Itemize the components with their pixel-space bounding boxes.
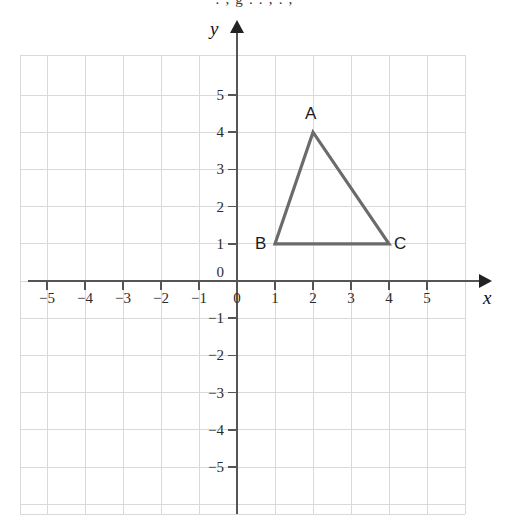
vertex-label-b: B (255, 235, 266, 252)
x-tick-label-origin: 0 (233, 291, 241, 306)
x-tick-label: −4 (77, 291, 93, 306)
x-axis-arrow (479, 274, 492, 288)
triangle-abc-path (275, 132, 389, 244)
x-tick-label: −2 (153, 291, 169, 306)
vertex-label-c: C (394, 235, 406, 252)
x-tick-label: 3 (347, 291, 355, 306)
y-tick-label: −3 (208, 385, 224, 400)
x-tick-label: 5 (423, 291, 431, 306)
x-tick-label: 1 (271, 291, 279, 306)
vertex-label-a: A (305, 105, 316, 122)
y-axis-arrow (230, 20, 244, 33)
x-tick-label: 4 (385, 291, 393, 306)
y-tick-label: 2 (217, 199, 225, 214)
y-tick-label: −4 (208, 422, 224, 437)
coordinate-plane-figure: . , g . . , . , (0, 0, 509, 523)
y-tick-label: 1 (217, 236, 225, 251)
y-tick-label: −2 (208, 348, 224, 363)
coordinate-plane-svg (0, 0, 509, 523)
x-tick-label: −1 (191, 291, 207, 306)
y-tick-label: 5 (217, 88, 225, 103)
y-tick-label: 4 (217, 125, 225, 140)
y-tick-label: 3 (217, 162, 225, 177)
y-axis-label: y (210, 19, 218, 38)
x-axis-label: x (483, 288, 491, 307)
axis-arrowheads (230, 20, 492, 288)
y-tick-label-origin: 0 (217, 265, 225, 280)
x-tick-label: 2 (309, 291, 317, 306)
x-tick-label: −5 (39, 291, 55, 306)
y-tick-label: −1 (208, 311, 224, 326)
y-tick-label: −5 (208, 460, 224, 475)
axis-lines (28, 28, 479, 514)
grid-lines (20, 55, 465, 514)
x-tick-label: −3 (115, 291, 131, 306)
